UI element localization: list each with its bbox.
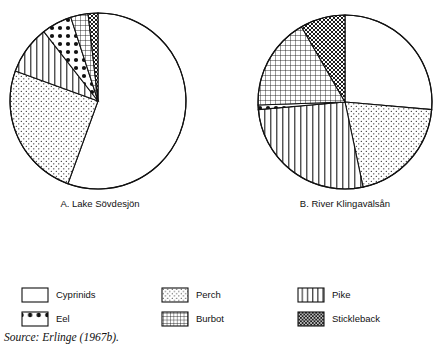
legend-label-eel: Eel (56, 313, 70, 324)
legend-swatch-perch[interactable] (162, 288, 188, 302)
chart-b-caption: B. River Klingavälsån (245, 198, 440, 209)
legend-swatch-cyprinids[interactable] (22, 288, 48, 302)
legend-label-stickleback: Stickleback (332, 313, 380, 324)
pie-chart-a (10, 13, 186, 189)
legend-label-cyprinids: Cyprinids (56, 289, 96, 300)
chart-a-caption: A. Lake Sövdesjön (0, 198, 200, 209)
legend-label-burbot: Burbot (196, 313, 224, 324)
legend-swatch-eel[interactable] (22, 312, 48, 326)
legend-swatch-stickleback[interactable] (298, 312, 324, 326)
legend-label-perch: Perch (196, 289, 221, 300)
pie-b-slice-pike[interactable] (258, 102, 363, 189)
pie-chart-b (258, 15, 432, 189)
source-note: Source: Erlinge (1967b). (4, 331, 119, 343)
legend-swatch-burbot[interactable] (162, 312, 188, 326)
legend-label-pike: Pike (332, 289, 350, 300)
legend-swatch-pike[interactable] (298, 288, 324, 302)
pie-b-slice-cyprinids[interactable] (345, 15, 432, 110)
